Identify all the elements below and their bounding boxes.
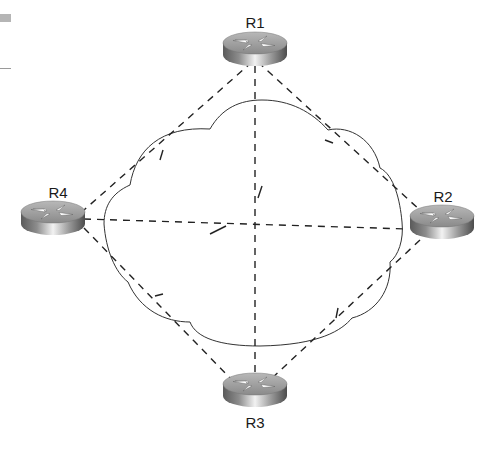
wan-cloud: [104, 100, 402, 346]
router-r4-label: R4: [48, 184, 67, 201]
link-r4-r3: [84, 228, 232, 380]
link-r1-r4: [84, 62, 252, 210]
router-r1-icon[interactable]: [223, 32, 287, 66]
network-diagram: [0, 0, 498, 458]
router-r2-icon[interactable]: [410, 205, 474, 239]
link-r1-r2: [258, 62, 422, 212]
router-r2-label: R2: [433, 188, 452, 205]
router-r3-icon[interactable]: [223, 373, 287, 407]
router-r3-label: R3: [245, 414, 264, 431]
router-r1-label: R1: [245, 14, 264, 31]
router-r4-icon[interactable]: [21, 201, 85, 235]
link-r4-r2: [84, 219, 408, 229]
link-r2-r3: [270, 240, 420, 380]
